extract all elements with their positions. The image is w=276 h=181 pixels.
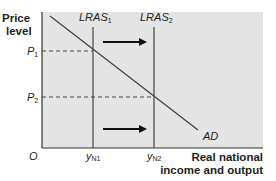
x-axis-label-line2: income and output — [160, 164, 263, 176]
ad-label: AD — [202, 130, 218, 142]
yn2-label: yN2 — [146, 150, 162, 162]
origin-label: O — [29, 150, 38, 162]
p2-label: P2 — [27, 91, 38, 104]
lras2-label: LRAS2 — [140, 11, 173, 24]
yn1-label: yN1 — [85, 150, 101, 162]
y-axis-label-line2: level — [6, 25, 32, 37]
ad-lras-diagram: Price level P1 P2 LRAS1 LRAS2 AD O yN1 y… — [0, 0, 276, 181]
y-axis-label-line1: Price — [2, 12, 30, 24]
p1-label: P1 — [27, 45, 38, 58]
x-axis-label-line1: Real national — [191, 151, 263, 163]
lras1-label: LRAS1 — [79, 11, 112, 24]
plot-area — [42, 12, 263, 148]
